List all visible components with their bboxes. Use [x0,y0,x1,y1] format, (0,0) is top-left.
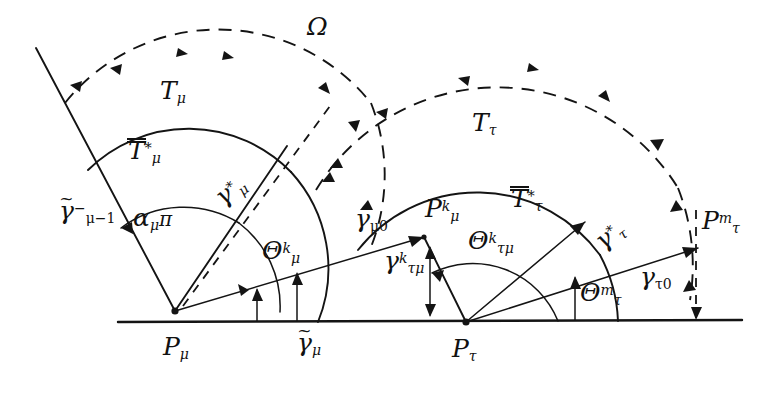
arrow-marker [238,284,249,296]
arrow-marker [222,51,234,60]
vertex-dot-P-tau [462,318,469,325]
label-gamma-k-taumu: γkτμ [384,248,424,275]
label-gamma-tau-0: γτ0 [640,264,672,291]
ray-gamma-tilde-mu-minus-1 [36,48,175,311]
arrow-marker [683,280,696,292]
label-theta-k-taumu: Θkτμ [468,228,514,255]
arrow-marker [598,90,610,102]
solid-arc-T-star-mu [88,129,291,172]
label-gamma-mu-0: γμ0 [355,206,388,233]
arrow-marker [318,82,330,94]
dashed-arc-T-tau [316,87,678,190]
arrow-marker [348,120,360,132]
label-P-mu: Pμ [163,334,189,361]
arrow-marker [322,172,335,182]
arrow-marker [252,288,263,301]
label-alpha-mu-pi: αμπ [133,205,172,232]
label-P-tau: Pτ [452,336,477,363]
arrow-marker [425,246,436,259]
baseline-axis [118,320,742,322]
label-P-k-mu: Pkμ [425,196,459,223]
arrow-marker [458,76,470,86]
label-omega: Ω [307,14,328,39]
label-T-mu: Tμ [160,78,186,105]
vertex-dot-P-mu [171,307,178,314]
ray-gamma-star-mu [175,146,287,311]
figure-canvas: Ω Tμ Tτ T*μ T*τ γ*μ γ*τ ~γ−μ−1 ~γμ γμ0 γ… [0,0,760,402]
arrow-marker [425,304,436,317]
label-T-star-bar-tau: T*τ [511,186,542,213]
dashed-ray-gamma-mu [183,106,330,306]
label-gamma-tilde-mu-minus-1: ~γ−μ−1 [59,198,115,225]
label-T-star-bar-mu: T*μ [128,138,161,165]
label-T-tau: Tτ [472,110,496,137]
label-gamma-tilde-mu: ~γμ [297,330,321,357]
vertex-dot-P-k-mu [421,234,426,239]
arrow-marker [110,64,122,75]
arrow-marker [70,81,82,92]
arrow-marker [670,200,683,212]
arrow-marker [376,108,388,119]
arrow-marker [650,139,664,151]
arrow-marker [176,48,188,57]
label-theta-m-tau: Θmτ [580,280,622,307]
label-theta-k-mu: Θkμ [262,238,300,265]
label-P-m-tau: Pmτ [702,208,740,235]
arrow-marker [691,307,702,320]
arrow-marker [527,63,539,72]
